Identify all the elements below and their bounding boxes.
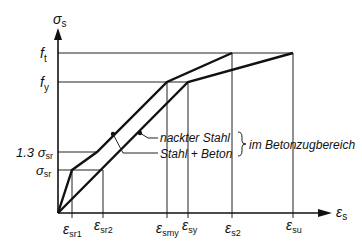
- x-axis-title: εs: [336, 204, 347, 222]
- legend-stahl-beton: Stahl + Beton: [160, 147, 233, 161]
- xtick-esu: εsu: [286, 217, 302, 235]
- xtick-es2: εs2: [225, 220, 241, 238]
- ytick-ft: ft: [40, 45, 47, 64]
- y-axis-title: σs: [53, 11, 66, 29]
- axes: [54, 28, 332, 217]
- xtick-esmy: εsmy: [156, 220, 179, 238]
- xtick-esr1: εsr1: [63, 221, 82, 239]
- leader-nackter-stahl: [140, 133, 158, 138]
- legend-nackter-stahl: nackter Stahl: [160, 131, 230, 145]
- xtick-esr2: εsr2: [94, 217, 113, 235]
- brace-icon: [238, 132, 246, 156]
- ytick-sigma-sr: σsr: [36, 163, 51, 179]
- y-axis-arrow-icon: [54, 28, 62, 40]
- ytick-fy: fy: [40, 74, 49, 93]
- xtick-esy: εsy: [182, 217, 198, 235]
- ytick-1.3-sigma-sr: 1.3 σsr: [16, 145, 53, 161]
- stress-strain-diagram: nackter Stahl Stahl + Beton im Betonzugb…: [0, 0, 362, 249]
- x-axis-arrow-icon: [318, 209, 332, 217]
- legend-group-label: im Betonzugbereich: [249, 138, 355, 152]
